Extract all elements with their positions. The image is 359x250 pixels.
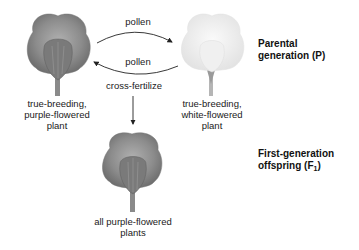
offspring-label-line1: all purple-flowered [83,216,183,227]
offspring-label-line2: plants [83,227,183,238]
parental-heading-line2: generation (P) [258,50,325,62]
pollen-arrow-top [97,32,172,43]
cross-fertilize-label: cross-fertilize [96,80,172,91]
offspring-label: all purple-flowered plants [83,216,183,238]
white-parent-label-line1: true-breeding, [167,98,257,109]
f1-heading-text: offspring (F [258,160,314,171]
offspring-flower-icon [103,133,162,212]
white-parent-label: true-breeding, white-flowered plant [167,98,257,131]
f1-heading-close: ) [317,160,320,171]
f1-heading-line2: offspring (F1) [258,160,334,175]
parental-generation-heading: Parental generation (P) [258,38,325,62]
white-flower-icon [181,14,243,96]
f1-generation-heading: First-generation offspring (F1) [258,148,334,175]
purple-parent-label-line3: plant [12,120,102,131]
purple-parent-label: true-breeding, purple-flowered plant [12,98,102,131]
purple-parent-label-line1: true-breeding, [12,98,102,109]
f1-heading-line1: First-generation [258,148,334,160]
parental-heading-line1: Parental [258,38,325,50]
white-parent-label-line2: white-flowered [167,109,257,120]
white-parent-label-line3: plant [167,120,257,131]
pollen-bottom-label: pollen [118,56,158,67]
purple-parent-label-line2: purple-flowered [12,109,102,120]
purple-flower-icon [27,14,90,96]
pollen-top-label: pollen [118,16,158,27]
